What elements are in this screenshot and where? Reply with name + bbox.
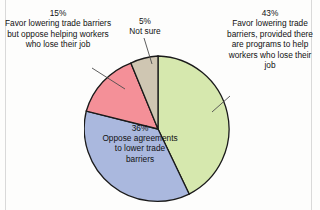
slice-percent-43: 43% bbox=[224, 8, 316, 18]
slice-label-43: 43% Favor lowering trade barriers, provi… bbox=[224, 8, 316, 70]
slice-percent-15: 15% bbox=[4, 8, 112, 18]
pie-chart-figure: 15% Favor lowering trade barriers but op… bbox=[0, 0, 320, 210]
slice-text-43: Favor lowering trade barriers, provided … bbox=[227, 18, 313, 70]
slice-label-15: 15% Favor lowering trade barriers but op… bbox=[4, 8, 112, 50]
slice-label-36: 36% Oppose agreements to lower trade bar… bbox=[102, 123, 178, 164]
slice-label-5: 5% Not sure bbox=[112, 16, 178, 37]
slice-text-15: Favor lowering trade barriers but oppose… bbox=[5, 18, 111, 49]
slice-percent-36: 36% bbox=[102, 123, 178, 133]
slice-percent-5: 5% bbox=[112, 16, 178, 26]
cropped-title-fragment bbox=[62, 0, 262, 4]
slice-text-5: Not sure bbox=[129, 26, 160, 36]
slice-text-36: Oppose agreements to lower trade barrier… bbox=[102, 133, 177, 163]
